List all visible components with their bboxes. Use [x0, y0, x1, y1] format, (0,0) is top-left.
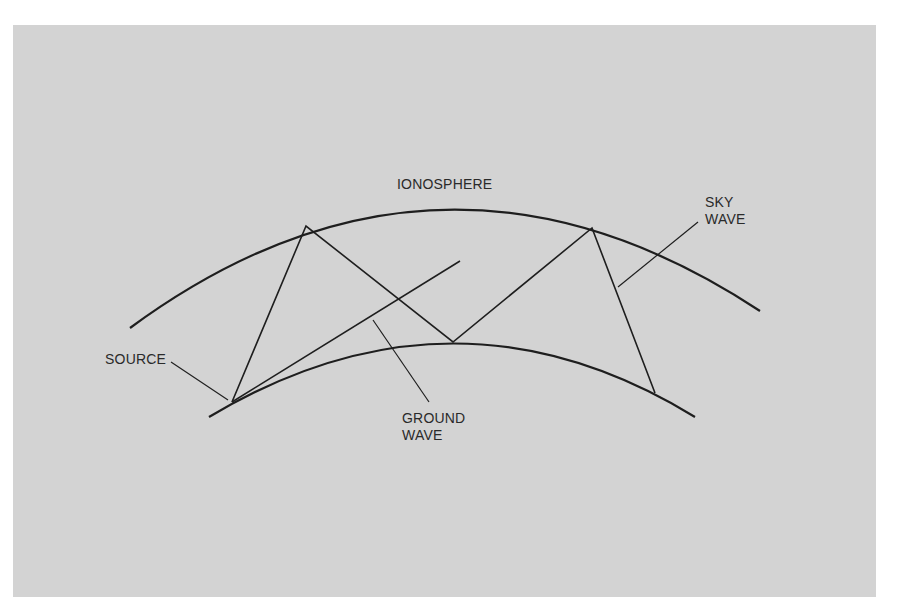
sky-wave-leader: [618, 222, 698, 287]
ground-wave-label-line2: WAVE: [402, 427, 465, 444]
propagation-diagram: [0, 0, 898, 615]
sky-wave-label-line1: SKY: [705, 194, 745, 211]
sky-wave-label-line2: WAVE: [705, 211, 745, 228]
ionosphere-label: IONOSPHERE: [397, 176, 492, 193]
ground-wave-label-line1: GROUND: [402, 410, 465, 427]
ground-wave-line: [232, 261, 460, 402]
sky-wave-label: SKY WAVE: [705, 194, 745, 228]
ground-wave-leader: [373, 320, 429, 402]
ionosphere-arc: [130, 210, 760, 328]
earth-surface-arc: [209, 344, 695, 418]
source-leader: [171, 362, 228, 400]
sky-wave-path: [232, 226, 655, 402]
source-label: SOURCE: [105, 351, 166, 368]
ground-wave-label: GROUND WAVE: [402, 410, 465, 444]
